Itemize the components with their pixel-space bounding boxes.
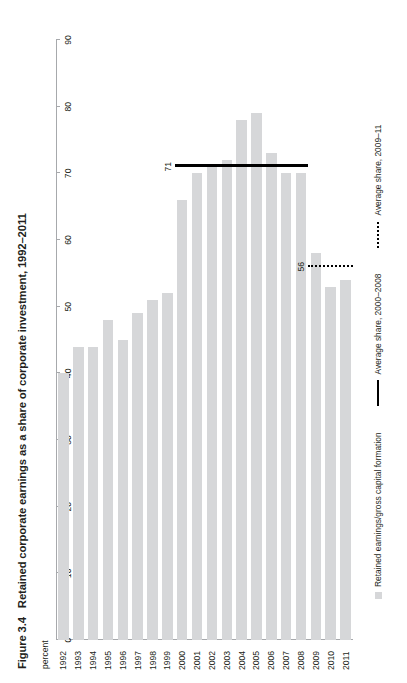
legend-label: Average share, 2009–11 — [373, 125, 383, 216]
bar-1996 — [118, 340, 129, 640]
value-axis-tick-label: 80 — [63, 102, 73, 112]
figure-container: Figure 3.4Retained corporate earnings as… — [0, 0, 407, 683]
bar-2008 — [296, 173, 307, 640]
category-label-1993: 1993 — [73, 651, 83, 670]
bar-1993 — [73, 347, 84, 640]
value-axis-line — [56, 40, 57, 640]
value-axis-tick-label: 90 — [63, 35, 73, 45]
bar-1998 — [147, 300, 158, 640]
bar-2004 — [236, 120, 247, 640]
bar-2011 — [340, 280, 351, 640]
value-axis-tick — [56, 39, 60, 40]
category-label-2005: 2005 — [251, 651, 261, 670]
chart-legend: Retained earnings/gross capital formatio… — [372, 99, 383, 599]
legend-solid-line-icon — [377, 380, 379, 406]
value-axis-tick — [56, 172, 60, 173]
bar-2002 — [207, 167, 218, 640]
category-label-1995: 1995 — [103, 651, 113, 670]
legend-item: Average share, 2000–2008 — [372, 274, 383, 407]
bar-1997 — [132, 313, 143, 640]
category-label-2004: 2004 — [237, 651, 247, 670]
bar-1999 — [162, 293, 173, 640]
figure-title-text: Retained corporate earnings as a share o… — [16, 213, 28, 608]
value-axis-tick-label: 60 — [63, 235, 73, 245]
bar-1995 — [103, 320, 114, 640]
reference-line-56 — [308, 265, 353, 267]
bar-2010 — [325, 287, 336, 640]
category-label-2010: 2010 — [326, 651, 336, 670]
figure-number: Figure 3.4 — [16, 617, 28, 669]
category-label-1997: 1997 — [133, 651, 143, 670]
legend-label: Retained earnings/gross capital formatio… — [373, 432, 383, 587]
reference-line-71 — [175, 164, 309, 166]
category-label-2007: 2007 — [281, 651, 291, 670]
legend-swatch-icon — [375, 592, 382, 599]
value-axis-tick — [56, 106, 60, 107]
category-axis-line — [56, 639, 353, 640]
value-axis-tick-label: 70 — [63, 169, 73, 179]
figure-title: Figure 3.4Retained corporate earnings as… — [16, 213, 28, 669]
category-label-2003: 2003 — [222, 651, 232, 670]
bar-2006 — [266, 153, 277, 640]
category-label-2006: 2006 — [266, 651, 276, 670]
value-axis-tick-label: 50 — [63, 302, 73, 312]
legend-item: Retained earnings/gross capital formatio… — [372, 432, 383, 599]
bar-2001 — [192, 173, 203, 640]
reference-line-value-56: 56 — [296, 262, 306, 272]
value-axis-tick — [56, 239, 60, 240]
category-label-2009: 2009 — [311, 651, 321, 670]
legend-label: Average share, 2000–2008 — [373, 274, 383, 375]
axis-unit-label: percent — [40, 640, 50, 669]
category-label-2000: 2000 — [177, 651, 187, 670]
value-axis-tick — [56, 306, 60, 307]
legend-item: Average share, 2009–11 — [372, 125, 383, 248]
category-label-2001: 2001 — [192, 651, 202, 670]
category-label-1999: 1999 — [162, 651, 172, 670]
bar-1992 — [58, 373, 69, 640]
bar-2003 — [222, 160, 233, 640]
plot-area: 0102030405060708090 19921993199419951996… — [56, 40, 353, 640]
reference-line-value-71: 71 — [163, 162, 173, 172]
bar-2007 — [281, 173, 292, 640]
bar-2005 — [251, 113, 262, 640]
legend-dotted-line-icon — [377, 222, 379, 248]
category-label-2008: 2008 — [296, 651, 306, 670]
bar-2009 — [311, 253, 322, 640]
category-label-1998: 1998 — [148, 651, 158, 670]
category-label-1994: 1994 — [88, 651, 98, 670]
category-label-1996: 1996 — [118, 651, 128, 670]
category-label-1992: 1992 — [58, 651, 68, 670]
bar-2000 — [177, 200, 188, 640]
category-label-2002: 2002 — [207, 651, 217, 670]
bar-1994 — [88, 347, 99, 640]
category-label-2011: 2011 — [341, 652, 351, 670]
